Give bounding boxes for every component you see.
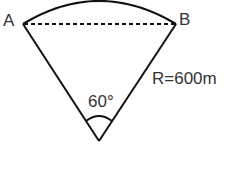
- radius-a: [23, 24, 99, 141]
- point-b-label: B: [179, 10, 190, 29]
- angle-label: 60°: [88, 92, 114, 111]
- sector-arc: [23, 1, 176, 24]
- radius-label: R=600m: [152, 69, 217, 88]
- sector-diagram: A B 60° R=600m: [0, 0, 243, 172]
- angle-arc: [86, 116, 112, 121]
- point-a-label: A: [3, 11, 15, 30]
